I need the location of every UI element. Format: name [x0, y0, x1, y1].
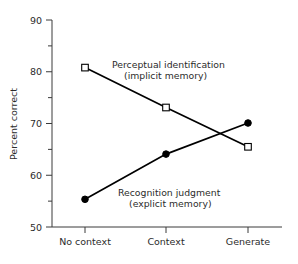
y-tick-label-50: 50	[30, 222, 42, 233]
y-axis-title: Percent correct	[8, 88, 19, 160]
y-tick-label-90: 90	[30, 15, 42, 26]
y-axis-major-ticks	[46, 20, 52, 227]
x-tick-label-generate: Generate	[226, 236, 271, 247]
y-tick-label-80: 80	[30, 66, 42, 77]
y-tick-label-60: 60	[30, 170, 42, 181]
x-tick-label-no-context: No context	[59, 236, 111, 247]
y-tick-label-70: 70	[30, 118, 42, 129]
x-axis-ticks	[85, 227, 248, 233]
series-annotation-recognition-judgment-line2: (explicit memory)	[129, 198, 212, 209]
series-annotation-perceptual-identification-line1: Perceptual identification	[112, 59, 225, 70]
series-annotation-perceptual-identification-line2: (implicit memory)	[124, 70, 207, 81]
x-tick-label-context: Context	[147, 236, 184, 247]
line-chart: 90 80 70 60 50 Percent correct No contex…	[0, 0, 298, 264]
series-annotation-recognition-judgment-line1: Recognition judgment	[118, 187, 221, 198]
chart-figure: 90 80 70 60 50 Percent correct No contex…	[0, 0, 298, 264]
